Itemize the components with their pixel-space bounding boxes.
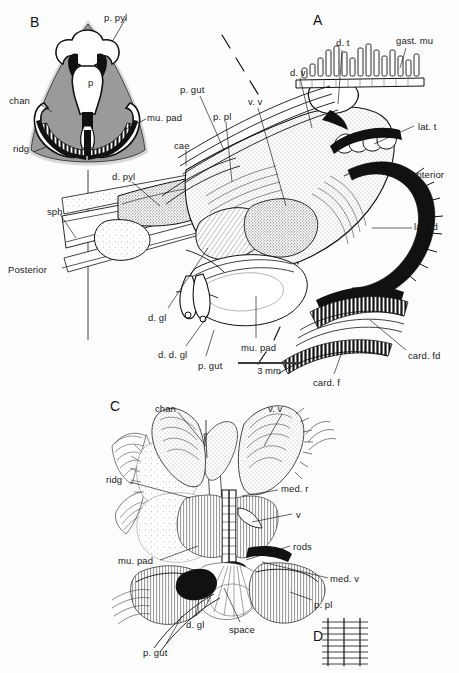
illustration-artwork [0, 0, 459, 673]
panel-letter-c: C [110, 398, 120, 414]
label-a-posterior: Posterior [8, 265, 47, 275]
label-c-rods: rods [293, 542, 312, 552]
scale-bar: 3 mm [238, 362, 300, 376]
label-a-card-fd: card. fd [408, 351, 440, 361]
panel-letter-a: A [313, 12, 322, 28]
label-a-mu-pad: mu. pad [241, 343, 276, 353]
label-a-d-gl: d. gl [148, 313, 166, 323]
label-a-card-f: card. f [313, 378, 340, 388]
label-a-v-v: v. v [248, 97, 262, 107]
label-a-d-v: d. v [290, 68, 306, 78]
scale-bar-label: 3 mm [238, 365, 300, 376]
label-a-d-d-gl: d. d. gl [158, 350, 187, 360]
label-b-ridg: ridg [13, 144, 29, 154]
label-a-sph: sph [47, 207, 63, 217]
label-c-ridg: ridg [106, 475, 122, 485]
label-c-v: v [296, 510, 301, 520]
label-b-mu-pad: mu. pad [147, 113, 182, 123]
label-c-p-gut: p. gut [143, 648, 167, 658]
label-a-lat-t: lat. t [418, 122, 437, 132]
label-c-v-v: v. v [268, 404, 282, 414]
label-b-p: p [88, 78, 93, 88]
label-a-d-t: d. t [336, 38, 350, 48]
label-c-med-r: med. r [281, 484, 309, 494]
panel-c-artwork [112, 406, 336, 652]
label-a-anterior: Anterior [410, 170, 444, 180]
panel-d-artwork [322, 618, 368, 666]
label-a-p-gut: p. gut [180, 85, 204, 95]
label-a-cae: cae [174, 141, 190, 151]
label-a-p-pl: p. pl [213, 112, 231, 122]
label-c-mu-pad: mu. pad [118, 556, 153, 566]
label-c-med-v: med. v [330, 574, 359, 584]
label-a-gast-mu: gast. mu [396, 36, 433, 46]
scale-bar-line [238, 362, 300, 364]
label-a-lat-fd: lat. fd [414, 222, 438, 232]
label-c-space: space [229, 625, 255, 635]
label-b-p-pyl: p. pyl [104, 13, 127, 23]
figure-plate: p. pylchanmu. padridgpp. gutcaed. pylsph… [0, 0, 459, 673]
label-a-p-gut-2: p. gut [198, 361, 222, 371]
label-c-chan: chan [155, 404, 176, 414]
label-c-p-pl: p. pl [314, 600, 332, 610]
panel-letter-b: B [30, 14, 39, 30]
label-b-chan: chan [9, 96, 30, 106]
label-a-d-pyl: d. pyl [112, 172, 135, 182]
label-c-d-gl: d. gl [186, 620, 204, 630]
panel-letter-d: D [313, 628, 323, 644]
